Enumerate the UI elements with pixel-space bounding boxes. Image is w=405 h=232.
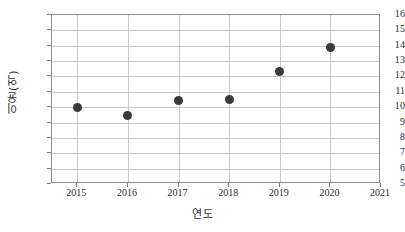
x-axis-tick-mark	[76, 183, 77, 187]
y-axis-tick-mark	[47, 106, 51, 107]
gridline-vertical	[280, 15, 281, 182]
y-axis-tick-mark	[47, 137, 51, 138]
y-axis-tick-mark	[47, 60, 51, 61]
y-axis-tick-mark	[47, 152, 51, 153]
data-point	[326, 43, 335, 52]
y-axis-title: 이윤(억)	[6, 70, 22, 114]
x-axis-tick-label: 2019	[254, 187, 304, 198]
x-axis-tick-label: 2021	[355, 187, 405, 198]
y-axis-tick-label: 13	[361, 55, 405, 65]
y-axis-tick-mark	[47, 14, 51, 15]
x-axis-tick-label: 2015	[51, 187, 101, 198]
y-axis-tick-mark	[47, 168, 51, 169]
x-axis-tick-mark	[279, 183, 280, 187]
data-point	[225, 95, 234, 104]
x-axis-tick-mark	[127, 183, 128, 187]
data-point	[123, 111, 132, 120]
data-point	[174, 96, 183, 105]
y-axis-tick-label: 11	[361, 86, 405, 96]
y-axis-tick-mark	[47, 45, 51, 46]
y-axis-tick-label: 14	[361, 40, 405, 50]
x-axis-tick-mark	[228, 183, 229, 187]
y-axis-tick-mark	[47, 29, 51, 30]
y-axis-tick-label: 10	[361, 101, 405, 111]
gridline-vertical	[77, 15, 78, 182]
x-axis-tick-label: 2017	[153, 187, 203, 198]
data-point	[275, 67, 284, 76]
y-axis-tick-label: 7	[361, 147, 405, 157]
gridline-vertical	[128, 15, 129, 182]
x-axis-title: 연도	[0, 205, 405, 221]
x-axis-tick-label: 2020	[304, 187, 354, 198]
x-axis-tick-label: 2016	[102, 187, 152, 198]
y-axis-tick-label: 12	[361, 70, 405, 80]
chart-screenshot: 5678910111213141516 20152016201720182019…	[0, 0, 405, 232]
data-point	[73, 103, 82, 112]
gridline-vertical	[330, 15, 331, 182]
y-axis-tick-label: 6	[361, 163, 405, 173]
y-axis-tick-mark	[47, 75, 51, 76]
y-axis-tick-mark	[47, 122, 51, 123]
x-axis-tick-mark	[329, 183, 330, 187]
y-axis-tick-mark	[47, 183, 51, 184]
y-axis-tick-label: 8	[361, 132, 405, 142]
y-axis-tick-label: 9	[361, 117, 405, 127]
y-axis-tick-mark	[47, 91, 51, 92]
x-axis-tick-mark	[178, 183, 179, 187]
x-axis-tick-mark	[380, 183, 381, 187]
y-axis-tick-label: 16	[361, 9, 405, 19]
plot-area	[51, 14, 380, 183]
y-axis-tick-label: 15	[361, 24, 405, 34]
x-axis-tick-label: 2018	[203, 187, 253, 198]
